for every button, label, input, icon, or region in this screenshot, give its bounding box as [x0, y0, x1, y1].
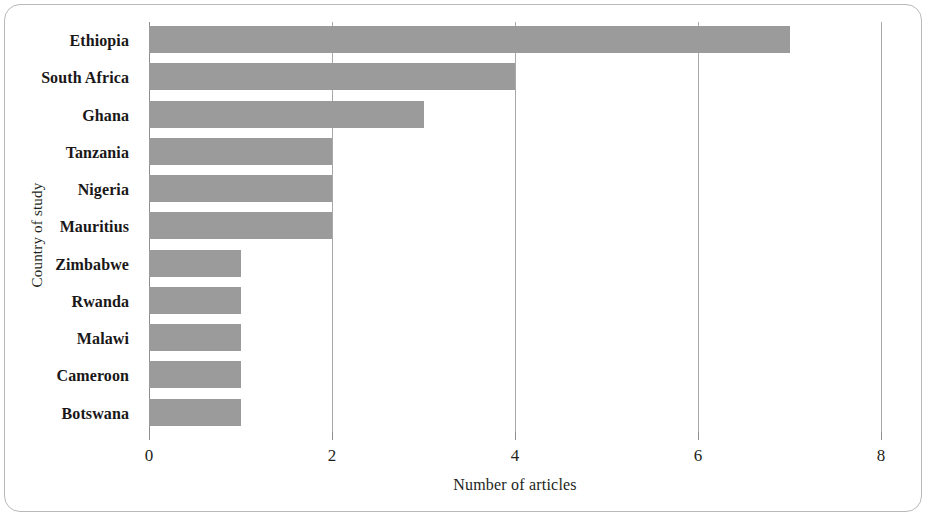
bar-row — [149, 22, 881, 58]
x-tick-label: 4 — [485, 446, 545, 466]
bar-row — [149, 171, 881, 207]
bar — [149, 324, 241, 351]
category-label: Mauritius — [0, 208, 139, 245]
bar — [149, 287, 241, 314]
tick-mark-8 — [881, 432, 882, 440]
category-label: Cameroon — [0, 357, 139, 394]
bar-row — [149, 134, 881, 170]
bar-row — [149, 208, 881, 244]
bar — [149, 26, 790, 53]
bar-row — [149, 97, 881, 133]
category-label: Ethiopia — [0, 22, 139, 59]
x-tick-label: 0 — [119, 446, 179, 466]
bar — [149, 212, 332, 239]
figure-container: Country of study EthiopiaSouth AfricaGha… — [0, 0, 928, 520]
bar-row — [149, 283, 881, 319]
bar — [149, 138, 332, 165]
tick-mark-4 — [515, 432, 516, 440]
category-label: Nigeria — [0, 171, 139, 208]
plot-area: 02468 — [149, 22, 881, 432]
category-label: South Africa — [0, 59, 139, 96]
bar — [149, 399, 241, 426]
category-label: Rwanda — [0, 283, 139, 320]
bar-row — [149, 357, 881, 393]
category-label: Botswana — [0, 395, 139, 432]
bar — [149, 361, 241, 388]
category-label: Ghana — [0, 97, 139, 134]
bar — [149, 63, 515, 90]
category-label: Tanzania — [0, 134, 139, 171]
category-label: Malawi — [0, 320, 139, 357]
y-axis-tick-labels: EthiopiaSouth AfricaGhanaTanzaniaNigeria… — [0, 22, 139, 432]
bar-row — [149, 320, 881, 356]
bar — [149, 175, 332, 202]
tick-mark-6 — [698, 432, 699, 440]
x-tick-label: 2 — [302, 446, 362, 466]
tick-mark-2 — [332, 432, 333, 440]
x-axis-title: Number of articles — [149, 476, 881, 494]
gridline-8 — [881, 22, 882, 432]
x-tick-label: 6 — [668, 446, 728, 466]
x-tick-label: 8 — [851, 446, 911, 466]
bar-row — [149, 395, 881, 431]
bar — [149, 250, 241, 277]
bar-row — [149, 246, 881, 282]
bar-row — [149, 59, 881, 95]
tick-mark-0 — [149, 432, 150, 440]
bar — [149, 101, 424, 128]
category-label: Zimbabwe — [0, 246, 139, 283]
